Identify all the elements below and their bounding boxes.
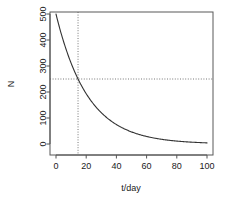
chart-figure: 0100200300400500 020406080100 N t/day [0, 0, 227, 205]
x-axis-tick-label: 60 [142, 161, 152, 171]
y-axis-tick-label: 400 [38, 32, 48, 47]
x-axis-tick-label: 20 [81, 161, 91, 171]
plot-panel-background [50, 12, 213, 155]
y-axis-tick-label: 0 [38, 141, 48, 146]
x-axis-tick-label: 0 [53, 161, 58, 171]
y-axis-tick-label: 500 [38, 6, 48, 21]
x-axis: 020406080100 [53, 155, 214, 171]
plot-canvas: 0100200300400500 020406080100 N t/day [0, 0, 227, 205]
x-axis-label: t/day [121, 183, 141, 193]
x-axis-tick-label: 40 [111, 161, 121, 171]
y-axis-tick-label: 300 [38, 58, 48, 73]
y-axis-label: N [6, 81, 16, 88]
y-axis: 0100200300400500 [38, 6, 50, 146]
y-axis-tick-label: 100 [38, 110, 48, 125]
y-axis-tick-label: 200 [38, 84, 48, 99]
x-axis-tick-label: 80 [172, 161, 182, 171]
x-axis-tick-label: 100 [199, 161, 214, 171]
